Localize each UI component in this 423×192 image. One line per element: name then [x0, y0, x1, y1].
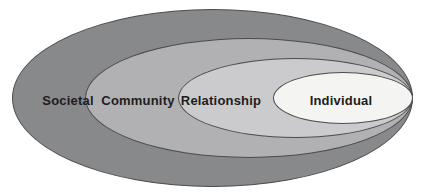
label-relationship: Relationship — [181, 93, 261, 108]
label-individual: Individual — [310, 93, 373, 108]
nested-ellipse-diagram: Societal Community Relationship Individu… — [0, 0, 423, 192]
label-community: Community — [101, 93, 174, 108]
label-societal: Societal — [42, 93, 93, 108]
